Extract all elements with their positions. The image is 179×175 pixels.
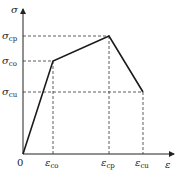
epsilon-co-label: εco: [45, 158, 59, 170]
epsilon-cp-label: εcp: [101, 158, 115, 170]
x-axis-label: ε: [165, 160, 170, 170]
origin-label: 0: [17, 158, 23, 168]
sigma-cu-label: σcu: [2, 87, 17, 99]
sigma-cp-label: σcp: [2, 31, 17, 43]
stress-strain-diagram: σ ε 0 σcp σco σcu εco εcp εcu: [0, 0, 179, 175]
sigma-co-label: σco: [2, 56, 17, 68]
stress-strain-curve: [23, 36, 143, 154]
diagram-canvas: [0, 0, 179, 175]
epsilon-cu-label: εcu: [135, 158, 149, 170]
y-axis-label: σ: [11, 5, 18, 15]
guide-lines: [23, 36, 143, 154]
